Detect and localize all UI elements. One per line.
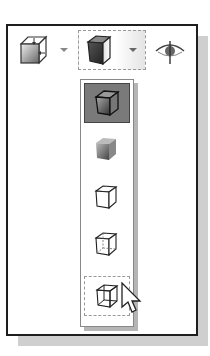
menu-item-shaded-with-edges[interactable]	[84, 83, 130, 123]
view-orientation-dropdown-arrow[interactable]	[60, 48, 68, 52]
shaded-with-edges-icon	[92, 88, 122, 118]
pointer-cursor-icon	[120, 282, 144, 318]
mouse-cursor	[120, 282, 144, 318]
display-style-current-icon	[84, 33, 116, 67]
menu-item-hidden-lines-removed[interactable]	[84, 178, 128, 216]
view-orientation-button[interactable]	[18, 34, 50, 66]
shaded-with-edges-cube-icon	[84, 33, 116, 67]
menu-item-hidden-lines-visible[interactable]	[84, 225, 128, 263]
eye-icon	[154, 36, 186, 68]
wireframe-icon	[92, 281, 122, 311]
shaded-icon	[91, 134, 121, 164]
menu-item-shaded[interactable]	[84, 130, 128, 168]
display-style-dropdown-arrow[interactable]	[129, 48, 137, 52]
view-orientation-cube-icon	[18, 34, 50, 66]
hide-show-items-button[interactable]	[154, 36, 186, 68]
hidden-lines-visible-icon	[91, 229, 121, 259]
hidden-lines-removed-icon	[91, 182, 121, 212]
